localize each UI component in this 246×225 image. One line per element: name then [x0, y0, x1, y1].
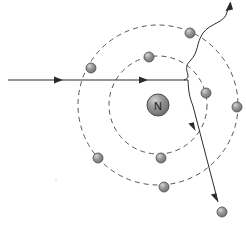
- electron-inner-bottom: [156, 153, 166, 163]
- electron-outer-bottom: [159, 182, 169, 192]
- electron-outer-botleft: [93, 153, 103, 163]
- deflected-arrowhead-mid: [188, 122, 195, 131]
- electron-inner-top: [144, 52, 154, 62]
- electron-outer-topleft: [86, 63, 96, 73]
- electron-outer-topright: [185, 28, 195, 38]
- electron-scattered: [217, 207, 227, 217]
- electron-inner-right: [201, 88, 211, 98]
- diagram-canvas: N: [0, 0, 246, 225]
- incoming-arrowhead-mid: [139, 77, 148, 84]
- particle-tracks: [8, 2, 233, 203]
- incoming-arrowhead: [54, 77, 63, 84]
- nucleus-sphere: [147, 94, 169, 116]
- nucleus: N: [147, 94, 169, 116]
- deflected-arrowhead-end: [211, 193, 218, 202]
- electron-outer-right: [232, 102, 242, 112]
- emitted-photon-track: [184, 3, 230, 80]
- electron-scattering-diagram: N: [0, 0, 246, 225]
- faint-smudge: [55, 179, 58, 182]
- deflected-electron-track: [188, 80, 218, 202]
- photon-arrowhead: [226, 2, 234, 12]
